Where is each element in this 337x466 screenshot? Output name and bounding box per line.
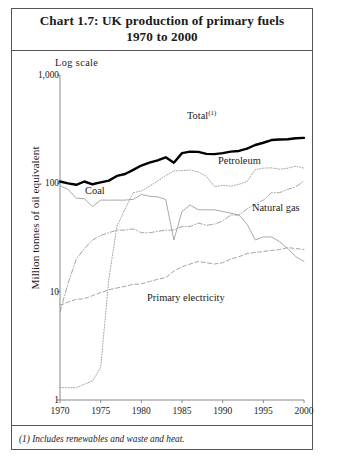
series-label-total: Total(1) [187,109,216,121]
x-tick-label: 1975 [91,406,110,416]
series-line-coal [60,186,304,262]
x-tick-label: 1980 [132,406,151,416]
x-tick-label: 1970 [51,406,70,416]
series-label-natural-gas: Natural gas [252,202,300,213]
chart-footnote: (1) Includes renewables and waste and he… [19,434,185,444]
y-tick-label: 1 [25,395,59,405]
series-line-petroleum [60,166,304,387]
data-series-group [60,138,304,388]
chart-container: Chart 1.7: UK production of primary fuel… [11,8,313,450]
chart-title-line-2: 1970 to 2000 [12,29,312,45]
chart-title: Chart 1.7: UK production of primary fuel… [12,13,312,45]
series-label-petroleum: Petroleum [218,155,261,166]
series-line-total [60,138,304,185]
log-scale-note: Log scale [55,57,98,68]
y-tick-label: 1,000 [25,70,59,80]
series-label-total-footnote-marker: (1) [208,109,216,117]
series-label-primary-electricity: Primary electricity [147,292,225,303]
footnote-divider [12,425,312,426]
series-label-coal: Coal [85,185,105,196]
x-tick-label: 1985 [173,406,192,416]
y-tick-label: 10 [25,287,59,297]
chart-title-line-1: Chart 1.7: UK production of primary fuel… [12,13,312,29]
plot-area: Million tonnes of oil equivalent Log sca… [12,50,314,428]
y-axis-tick-labels: 1,000100101 [25,50,59,428]
series-label-total-text: Total [187,110,208,121]
x-tick-label: 1995 [254,406,273,416]
x-tick-label: 2000 [295,406,314,416]
x-tick-label: 1990 [213,406,232,416]
y-tick-label: 100 [25,178,59,188]
